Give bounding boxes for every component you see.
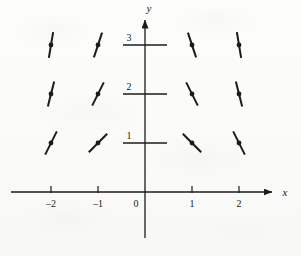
slope-segment-point	[190, 92, 195, 97]
x-tick-label: –1	[92, 198, 103, 209]
y-axis-label: y	[146, 2, 152, 14]
slope-segment-point	[96, 92, 101, 97]
x-ticks-group: –2–112	[45, 186, 242, 209]
slope-segment-point	[49, 141, 54, 146]
slope-segment-point	[190, 43, 195, 48]
x-tick-label: –2	[45, 198, 56, 209]
slope-segment-point	[96, 141, 101, 146]
slope-segment-point	[49, 43, 54, 48]
slope-segment-point	[237, 141, 242, 146]
x-tick-label: 1	[190, 198, 195, 209]
origin-tick-label: 0	[134, 198, 139, 209]
x-tick-label: 2	[237, 198, 242, 209]
y-tick-label: 1	[127, 130, 132, 141]
direction-field-figure: –2–112 123 x y 0	[0, 0, 301, 256]
x-axis-label: x	[282, 186, 288, 198]
slope-segment-point	[237, 43, 242, 48]
y-tick-label: 3	[127, 32, 132, 43]
slope-segment-point	[190, 141, 195, 146]
slope-segment-point	[237, 92, 242, 97]
slope-segment-point	[96, 43, 101, 48]
slope-segment-point	[49, 92, 54, 97]
y-tick-label: 2	[127, 81, 132, 92]
direction-field-plot: –2–112 123 x y 0	[0, 0, 301, 256]
